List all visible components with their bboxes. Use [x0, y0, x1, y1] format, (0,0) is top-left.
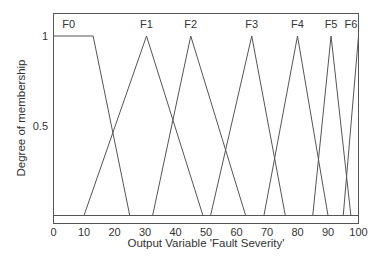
label-f5: F5 — [325, 18, 338, 30]
membership-f6 — [343, 36, 358, 216]
membership-f4 — [264, 36, 328, 216]
x-tick-label: 0 — [50, 226, 56, 238]
y-tick-label: 1 — [42, 30, 48, 42]
membership-f3 — [211, 36, 286, 216]
y-axis-ticks: 0.51 — [33, 30, 48, 132]
label-f6: F6 — [344, 18, 357, 30]
x-tick-label: 10 — [78, 226, 90, 238]
x-tick-label: 20 — [108, 226, 120, 238]
x-tick-label: 100 — [349, 226, 367, 238]
series-labels: F0F1F2F3F4F5F6 — [62, 18, 357, 30]
x-axis-label: Output Variable 'Fault Severity' — [128, 237, 285, 249]
membership-chart: F0F1F2F3F4F5F6 0102030405060708090100 0.… — [0, 0, 381, 265]
membership-f2 — [153, 36, 246, 216]
label-f1: F1 — [140, 18, 153, 30]
label-f3: F3 — [245, 18, 258, 30]
label-f4: F4 — [291, 18, 304, 30]
membership-f0 — [54, 36, 130, 216]
x-tick-label: 90 — [322, 226, 334, 238]
label-f2: F2 — [184, 18, 197, 30]
plot-frame — [54, 14, 359, 224]
y-axis-label: Degree of membership — [15, 60, 27, 177]
label-f0: F0 — [62, 18, 75, 30]
x-tick-label: 80 — [291, 226, 303, 238]
y-tick-label: 0.5 — [33, 120, 48, 132]
membership-functions — [54, 36, 359, 216]
